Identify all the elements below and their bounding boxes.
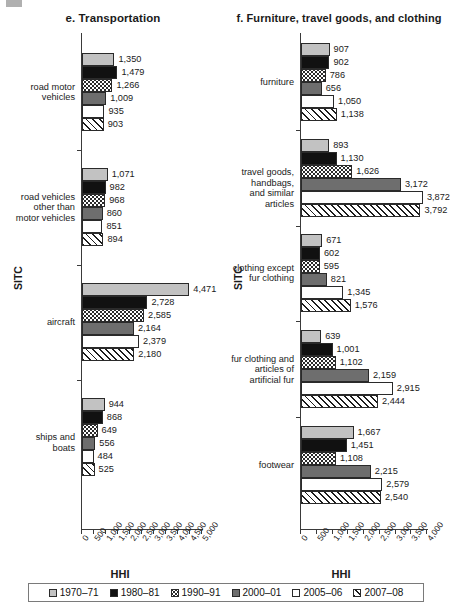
- bar: [301, 69, 326, 82]
- bar: [301, 369, 369, 382]
- bar: [301, 56, 329, 69]
- bar: [82, 437, 95, 450]
- x-axis-title-right: HHI: [281, 568, 401, 580]
- bar: [82, 322, 134, 335]
- category-label: ships and boats: [11, 432, 75, 453]
- x-axis-tick-label: 4,000: [425, 520, 445, 543]
- bar: [301, 204, 420, 217]
- bar: [301, 343, 333, 356]
- bar-value-label: 4,471: [193, 283, 216, 296]
- bar-value-label: 903: [108, 118, 123, 131]
- bar-value-label: 1,138: [341, 108, 364, 121]
- bar-value-label: 1,350: [118, 53, 141, 66]
- bar-value-label: 851: [106, 220, 121, 233]
- bar: [301, 152, 337, 165]
- bar: [82, 424, 98, 437]
- bar-value-label: 1,626: [356, 165, 379, 178]
- bar: [301, 426, 354, 439]
- x-axis-title-left: HHI: [60, 568, 180, 580]
- y-axis-tick: [296, 226, 300, 227]
- legend-swatch-icon: [353, 589, 361, 597]
- bar: [301, 260, 320, 273]
- bar: [301, 234, 322, 247]
- bar-value-label: 893: [333, 139, 348, 152]
- chart-panel-transportation: e. Transportation SITC 1,3501,4791,2661,…: [0, 0, 226, 565]
- bar-value-label: 1,001: [337, 343, 360, 356]
- y-axis-tick: [77, 150, 81, 151]
- bar: [301, 108, 337, 121]
- bar: [82, 220, 102, 233]
- bar-value-label: 1,451: [351, 439, 374, 452]
- legend-swatch-icon: [292, 589, 300, 597]
- bar-value-label: 2,540: [385, 491, 408, 504]
- bar-value-label: 907: [334, 43, 349, 56]
- bar: [82, 79, 112, 92]
- legend-label: 2005–06: [303, 587, 342, 598]
- bar: [82, 194, 105, 207]
- bar: [301, 478, 382, 491]
- legend-swatch-icon: [110, 589, 118, 597]
- bar: [82, 335, 139, 348]
- bar: [301, 439, 347, 452]
- y-axis-tick: [296, 321, 300, 322]
- bar: [82, 450, 94, 463]
- bar-value-label: 786: [330, 69, 345, 82]
- x-axis-tick-label: 0: [80, 533, 91, 543]
- legend-swatch-icon: [232, 589, 240, 597]
- bar: [82, 66, 117, 79]
- bar: [301, 299, 351, 312]
- category-label: fur clothing and articles of artificial …: [224, 354, 294, 386]
- bar-value-label: 935: [108, 105, 123, 118]
- legend: 1970–711980–811990–912000–012005–062007–…: [28, 583, 424, 602]
- bar-value-label: 525: [99, 463, 114, 476]
- legend-item: 2007–08: [353, 587, 403, 598]
- category-label: footwear: [224, 460, 294, 471]
- bar-value-label: 1,266: [116, 79, 139, 92]
- bar-value-label: 556: [99, 437, 114, 450]
- bar-value-label: 860: [107, 207, 122, 220]
- bar: [301, 139, 329, 152]
- plot-area-furniture: 9079027866561,0501,138furniture8931,1301…: [300, 33, 426, 530]
- bar: [82, 207, 103, 220]
- bar: [82, 296, 147, 309]
- bar: [301, 491, 381, 504]
- bar-value-label: 2,915: [397, 382, 420, 395]
- x-axis-tick-label: 0: [299, 533, 310, 543]
- bar: [301, 178, 401, 191]
- category-label: road motor vehicles: [11, 82, 75, 103]
- y-axis-tick: [77, 265, 81, 266]
- legend-item: 1970–71: [49, 587, 99, 598]
- bar-value-label: 3,792: [424, 204, 447, 217]
- y-axis-tick: [77, 380, 81, 381]
- chart-title-f: f. Furniture, travel goods, and clothing: [226, 12, 452, 24]
- category-label: clothing except fur clothing: [224, 263, 294, 284]
- bar-value-label: 3,172: [405, 178, 428, 191]
- bar: [82, 168, 108, 181]
- bar: [301, 191, 423, 204]
- bar: [82, 53, 114, 66]
- bar: [301, 95, 334, 108]
- bar-value-label: 902: [333, 56, 348, 69]
- bar-value-label: 1,667: [358, 426, 381, 439]
- bar: [301, 286, 343, 299]
- legend-item: 1990–91: [171, 587, 221, 598]
- legend-item: 2005–06: [292, 587, 342, 598]
- category-label: travel goods, handbags, and similar arti…: [224, 167, 294, 209]
- legend-label: 2000–01: [243, 587, 282, 598]
- legend-swatch-icon: [171, 589, 179, 597]
- bar-value-label: 2,159: [373, 369, 396, 382]
- bar-value-label: 1,576: [355, 299, 378, 312]
- bar: [301, 165, 352, 178]
- bar: [301, 82, 322, 95]
- bar-value-label: 1,102: [340, 356, 363, 369]
- bar-value-label: 595: [324, 260, 339, 273]
- bar: [301, 382, 393, 395]
- bar-value-label: 2,215: [375, 465, 398, 478]
- y-axis-title-left: SITC: [12, 266, 24, 290]
- bar-value-label: 639: [325, 330, 340, 343]
- chart-panel-furniture: f. Furniture, travel goods, and clothing…: [226, 0, 452, 565]
- bar: [82, 233, 103, 246]
- legend-label: 2007–08: [364, 587, 403, 598]
- y-axis-tick: [296, 130, 300, 131]
- bar-value-label: 982: [110, 181, 125, 194]
